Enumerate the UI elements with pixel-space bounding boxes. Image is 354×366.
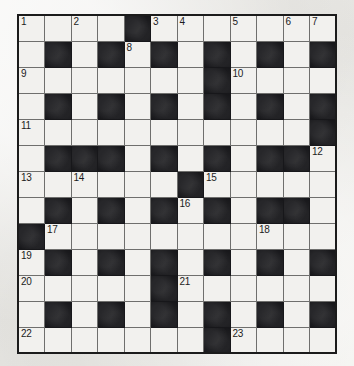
crossword-cell[interactable] xyxy=(45,327,72,353)
crossword-cell[interactable] xyxy=(283,119,310,145)
crossword-cell[interactable] xyxy=(230,249,257,275)
crossword-cell[interactable] xyxy=(283,223,310,249)
crossword-cell[interactable] xyxy=(124,197,151,223)
crossword-cell[interactable]: 19 xyxy=(18,249,45,275)
crossword-cell[interactable] xyxy=(151,171,178,197)
crossword-cell[interactable] xyxy=(230,171,257,197)
crossword-cell[interactable]: 3 xyxy=(151,15,178,41)
crossword-cell[interactable] xyxy=(283,67,310,93)
crossword-cell[interactable] xyxy=(177,93,204,119)
crossword-cell[interactable] xyxy=(230,93,257,119)
crossword-cell[interactable] xyxy=(177,145,204,171)
crossword-cell[interactable]: 10 xyxy=(230,67,257,93)
crossword-cell[interactable] xyxy=(177,67,204,93)
crossword-cell[interactable] xyxy=(230,301,257,327)
crossword-cell[interactable] xyxy=(283,275,310,301)
crossword-cell[interactable] xyxy=(18,93,45,119)
crossword-cell[interactable] xyxy=(124,301,151,327)
crossword-cell[interactable]: 6 xyxy=(283,15,310,41)
crossword-cell[interactable] xyxy=(98,15,125,41)
crossword-cell[interactable] xyxy=(98,119,125,145)
crossword-cell[interactable] xyxy=(310,275,337,301)
crossword-cell[interactable] xyxy=(18,197,45,223)
crossword-cell[interactable] xyxy=(45,15,72,41)
crossword-cell[interactable]: 4 xyxy=(177,15,204,41)
crossword-cell[interactable] xyxy=(204,15,231,41)
crossword-cell[interactable]: 1 xyxy=(18,15,45,41)
crossword-cell[interactable] xyxy=(98,67,125,93)
crossword-cell[interactable] xyxy=(283,249,310,275)
crossword-cell[interactable] xyxy=(177,119,204,145)
crossword-cell[interactable]: 17 xyxy=(45,223,72,249)
crossword-cell[interactable] xyxy=(45,67,72,93)
crossword-cell[interactable]: 7 xyxy=(310,15,337,41)
crossword-cell[interactable] xyxy=(124,249,151,275)
crossword-cell[interactable] xyxy=(124,327,151,353)
crossword-cell[interactable] xyxy=(204,275,231,301)
crossword-cell[interactable] xyxy=(98,275,125,301)
crossword-cell[interactable] xyxy=(230,197,257,223)
crossword-cell[interactable] xyxy=(283,301,310,327)
crossword-cell[interactable]: 18 xyxy=(257,223,284,249)
crossword-cell[interactable] xyxy=(177,223,204,249)
crossword-cell[interactable]: 11 xyxy=(18,119,45,145)
crossword-cell[interactable] xyxy=(257,327,284,353)
crossword-cell[interactable] xyxy=(71,249,98,275)
crossword-cell[interactable] xyxy=(204,119,231,145)
crossword-cell[interactable] xyxy=(151,223,178,249)
crossword-cell[interactable]: 22 xyxy=(18,327,45,353)
crossword-cell[interactable] xyxy=(177,327,204,353)
crossword-cell[interactable] xyxy=(71,93,98,119)
crossword-cell[interactable]: 23 xyxy=(230,327,257,353)
crossword-cell[interactable] xyxy=(124,145,151,171)
crossword-cell[interactable]: 20 xyxy=(18,275,45,301)
crossword-cell[interactable] xyxy=(71,197,98,223)
crossword-grid[interactable]: 1234567891011121314151617181920212223 xyxy=(17,14,337,354)
crossword-cell[interactable]: 16 xyxy=(177,197,204,223)
crossword-cell[interactable] xyxy=(45,275,72,301)
crossword-cell[interactable] xyxy=(98,327,125,353)
crossword-cell[interactable] xyxy=(230,145,257,171)
crossword-cell[interactable] xyxy=(177,41,204,67)
crossword-cell[interactable] xyxy=(257,119,284,145)
crossword-cell[interactable] xyxy=(310,197,337,223)
crossword-cell[interactable] xyxy=(98,171,125,197)
crossword-cell[interactable] xyxy=(310,327,337,353)
crossword-cell[interactable] xyxy=(124,275,151,301)
crossword-cell[interactable] xyxy=(283,171,310,197)
crossword-cell[interactable]: 15 xyxy=(204,171,231,197)
crossword-cell[interactable] xyxy=(71,223,98,249)
crossword-cell[interactable] xyxy=(18,301,45,327)
crossword-cell[interactable] xyxy=(71,275,98,301)
crossword-cell[interactable] xyxy=(45,171,72,197)
crossword-cell[interactable]: 14 xyxy=(71,171,98,197)
crossword-cell[interactable] xyxy=(124,93,151,119)
crossword-cell[interactable]: 12 xyxy=(310,145,337,171)
crossword-cell[interactable] xyxy=(151,119,178,145)
crossword-cell[interactable] xyxy=(310,171,337,197)
crossword-cell[interactable]: 2 xyxy=(71,15,98,41)
crossword-cell[interactable] xyxy=(283,327,310,353)
crossword-cell[interactable] xyxy=(257,275,284,301)
crossword-cell[interactable]: 21 xyxy=(177,275,204,301)
crossword-cell[interactable] xyxy=(230,223,257,249)
crossword-cell[interactable] xyxy=(71,301,98,327)
crossword-cell[interactable] xyxy=(177,249,204,275)
crossword-cell[interactable] xyxy=(71,327,98,353)
crossword-cell[interactable] xyxy=(283,41,310,67)
crossword-cell[interactable] xyxy=(124,67,151,93)
crossword-cell[interactable]: 13 xyxy=(18,171,45,197)
crossword-cell[interactable] xyxy=(257,67,284,93)
crossword-cell[interactable] xyxy=(124,223,151,249)
crossword-cell[interactable] xyxy=(124,119,151,145)
crossword-cell[interactable] xyxy=(230,275,257,301)
crossword-cell[interactable] xyxy=(71,119,98,145)
crossword-cell[interactable] xyxy=(230,119,257,145)
crossword-cell[interactable] xyxy=(257,15,284,41)
crossword-cell[interactable] xyxy=(310,223,337,249)
crossword-cell[interactable] xyxy=(18,41,45,67)
crossword-cell[interactable]: 8 xyxy=(124,41,151,67)
crossword-cell[interactable] xyxy=(151,67,178,93)
crossword-cell[interactable] xyxy=(204,223,231,249)
crossword-cell[interactable] xyxy=(177,301,204,327)
